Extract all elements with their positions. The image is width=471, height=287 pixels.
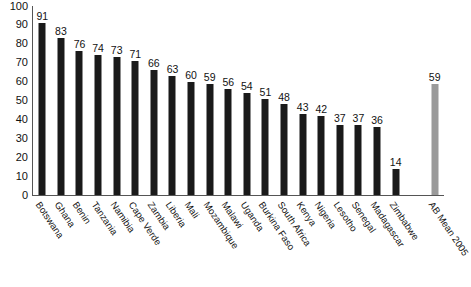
x-label-slot: Malawi bbox=[219, 197, 238, 287]
bar[interactable] bbox=[76, 51, 83, 195]
bar-group[interactable]: 36 bbox=[368, 6, 387, 195]
bar-value-label: 76 bbox=[74, 39, 86, 50]
y-axis: 1009080706050403020100 bbox=[0, 0, 30, 196]
x-label-slot: Mali bbox=[182, 197, 201, 287]
bar-value-label: 43 bbox=[297, 102, 309, 113]
x-label-slot: Botswana bbox=[33, 197, 52, 287]
bar-group[interactable]: 60 bbox=[182, 6, 201, 195]
x-label-slot: Tanzania bbox=[89, 197, 108, 287]
bar-value-label: 37 bbox=[353, 113, 365, 124]
bar[interactable] bbox=[57, 38, 64, 195]
x-label-slot: Kenya bbox=[293, 197, 312, 287]
y-tick-label: 100 bbox=[10, 1, 28, 12]
bar[interactable] bbox=[150, 70, 157, 195]
bar-mean[interactable] bbox=[431, 84, 438, 196]
bar[interactable] bbox=[206, 84, 213, 196]
x-label-slot: Namibia bbox=[107, 197, 126, 287]
y-tick-label: 50 bbox=[16, 95, 28, 106]
bar-group[interactable]: 43 bbox=[293, 6, 312, 195]
bar-value-label: 71 bbox=[129, 49, 141, 60]
y-tick-label: 20 bbox=[16, 152, 28, 163]
bar-group[interactable]: 48 bbox=[275, 6, 294, 195]
x-axis-labels: BotswanaGhanaBeninTanzaniaNamibiaCape Ve… bbox=[33, 197, 444, 287]
bar[interactable] bbox=[355, 125, 362, 195]
x-label-slot: Cape Verde bbox=[126, 197, 145, 287]
bar[interactable] bbox=[39, 23, 46, 195]
bar[interactable] bbox=[113, 57, 120, 195]
bar-group[interactable]: 54 bbox=[238, 6, 257, 195]
bar-group[interactable]: 66 bbox=[145, 6, 164, 195]
bar[interactable] bbox=[262, 99, 269, 195]
bar-value-label: 59 bbox=[204, 72, 216, 83]
bar-value-label: 73 bbox=[111, 45, 123, 56]
y-tick-label: 10 bbox=[16, 171, 28, 182]
bar-group[interactable]: 71 bbox=[126, 6, 145, 195]
bar-value-label: 51 bbox=[260, 87, 272, 98]
bar-value-label: 59 bbox=[429, 72, 441, 83]
bar-group[interactable]: 63 bbox=[163, 6, 182, 195]
x-label-slot: Zambia bbox=[145, 197, 164, 287]
bar-group[interactable]: 83 bbox=[52, 6, 71, 195]
bar[interactable] bbox=[95, 55, 102, 195]
x-tick-label: AB Mean 2005 bbox=[426, 200, 469, 258]
bar-group[interactable]: 74 bbox=[89, 6, 108, 195]
bar-group[interactable]: 59 bbox=[200, 6, 219, 195]
y-tick-label: 0 bbox=[22, 190, 28, 201]
bar-group[interactable]: 56 bbox=[219, 6, 238, 195]
x-label-slot: Burkina Faso bbox=[256, 197, 275, 287]
bar-group[interactable]: 59 bbox=[425, 6, 444, 195]
bar[interactable] bbox=[169, 76, 176, 195]
y-tick-label: 40 bbox=[16, 114, 28, 125]
bar[interactable] bbox=[281, 104, 288, 195]
bar-value-label: 42 bbox=[315, 104, 327, 115]
bar-value-label: 48 bbox=[278, 92, 290, 103]
bar-value-label: 56 bbox=[222, 77, 234, 88]
bar-value-label: 60 bbox=[185, 70, 197, 81]
bar-group[interactable]: 42 bbox=[312, 6, 331, 195]
x-tick-label: Zimbabwe bbox=[387, 200, 420, 242]
bar[interactable] bbox=[392, 169, 399, 195]
bar-value-label: 91 bbox=[36, 11, 48, 22]
y-tick-label: 90 bbox=[16, 19, 28, 30]
bar[interactable] bbox=[374, 127, 381, 195]
x-label-slot: Mozambique bbox=[200, 197, 219, 287]
bar-value-label: 83 bbox=[55, 26, 67, 37]
bar-value-label: 63 bbox=[167, 64, 179, 75]
x-label-slot: Benin bbox=[70, 197, 89, 287]
bar-value-label: 36 bbox=[371, 115, 383, 126]
x-label-slot: AB Mean 2005 bbox=[425, 197, 444, 287]
x-label-slot: Uganda bbox=[238, 197, 257, 287]
x-label-slot: Liberia bbox=[163, 197, 182, 287]
bar-value-label: 14 bbox=[390, 157, 402, 168]
bar[interactable] bbox=[243, 93, 250, 195]
y-tick-label: 70 bbox=[16, 57, 28, 68]
bar[interactable] bbox=[225, 89, 232, 195]
bar-group[interactable]: 51 bbox=[256, 6, 275, 195]
y-tick-label: 80 bbox=[16, 38, 28, 49]
bar-value-label: 74 bbox=[92, 43, 104, 54]
bar[interactable] bbox=[132, 61, 139, 195]
y-tick-label: 60 bbox=[16, 76, 28, 87]
x-label-slot: Ghana bbox=[52, 197, 71, 287]
bar-group[interactable]: 76 bbox=[70, 6, 89, 195]
bar[interactable] bbox=[188, 82, 195, 195]
x-label-slot: Zimbabwe bbox=[386, 197, 405, 287]
bar-value-label: 66 bbox=[148, 58, 160, 69]
bar-group[interactable]: 37 bbox=[349, 6, 368, 195]
x-label-slot: Nigeria bbox=[312, 197, 331, 287]
bar[interactable] bbox=[299, 114, 306, 195]
bar[interactable] bbox=[336, 125, 343, 195]
bar-group[interactable]: 14 bbox=[386, 6, 405, 195]
bar[interactable] bbox=[318, 116, 325, 195]
x-tick-label: Mali bbox=[183, 200, 201, 220]
x-label-slot: Madagascar bbox=[368, 197, 387, 287]
x-label-slot: South Africa bbox=[275, 197, 294, 287]
x-axis-line bbox=[32, 195, 444, 196]
bar-group[interactable]: 91 bbox=[33, 6, 52, 195]
bar-group[interactable]: 73 bbox=[107, 6, 126, 195]
bar-group[interactable]: 37 bbox=[331, 6, 350, 195]
y-tick-label: 30 bbox=[16, 133, 28, 144]
x-label-slot: Lesotho bbox=[331, 197, 350, 287]
plot-area: 9183767473716663605956545148434237373614… bbox=[33, 6, 444, 195]
